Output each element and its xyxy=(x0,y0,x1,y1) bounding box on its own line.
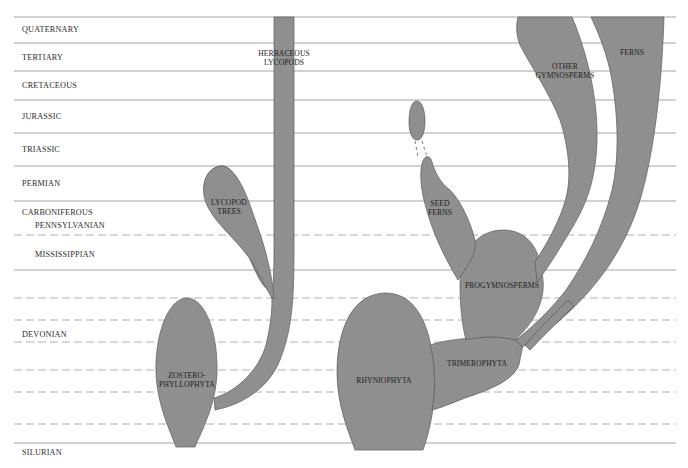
period-label-mississippian: MISSISSIPPIAN xyxy=(35,250,95,259)
taxon-label-rhyniophyta: RHYNIOPHYTA xyxy=(348,377,420,386)
taxon-label-seed-ferns: SEED FERNS xyxy=(420,200,460,217)
period-label-jurassic: JURASSIC xyxy=(22,112,61,121)
period-label-cretaceous: CRETACEOUS xyxy=(22,81,77,90)
seed-ferns-gap-dashes xyxy=(415,141,427,157)
taxon-label-lycopod-trees: LYCOPOD TREES xyxy=(205,199,253,216)
plant-evolution-diagram: QUATERNARY TERTIARY CRETACEOUS JURASSIC … xyxy=(0,0,688,468)
rhyniophyta-shape xyxy=(337,293,434,450)
period-label-pennsylvanian: PENNSYLVANIAN xyxy=(35,221,105,230)
period-label-triassic: TRIASSIC xyxy=(22,145,60,154)
period-label-permian: PERMIAN xyxy=(22,179,60,188)
period-label-quaternary: QUATERNARY xyxy=(22,25,79,34)
seed-ferns-shape xyxy=(421,157,475,280)
trimerophyta-shape xyxy=(430,337,523,410)
taxon-label-trimerophyta: TRIMEROPHYTA xyxy=(442,360,512,369)
lycopod-trees-shape xyxy=(204,166,274,298)
period-label-carboniferous: CARBONIFEROUS xyxy=(22,208,93,217)
taxon-label-progymnosperms: PROGYMNOSPERMS xyxy=(458,282,546,291)
period-label-devonian: DEVONIAN xyxy=(22,330,67,339)
taxon-label-other-gymnosperms: OTHER GYMNOSPERMS xyxy=(530,63,600,80)
period-label-silurian: SILURIAN xyxy=(22,448,62,457)
period-label-tertiary: TERTIARY xyxy=(22,53,63,62)
seed-ferns-jurassic-shape xyxy=(409,101,425,140)
taxon-label-zosterophyllophyta: ZOSTERO- PHYLLOPHYTA xyxy=(153,372,221,389)
taxon-label-ferns: FERNS xyxy=(612,49,652,58)
taxon-label-herbaceous-lycopods: HERBACEOUS LYCOPODS xyxy=(252,50,316,67)
